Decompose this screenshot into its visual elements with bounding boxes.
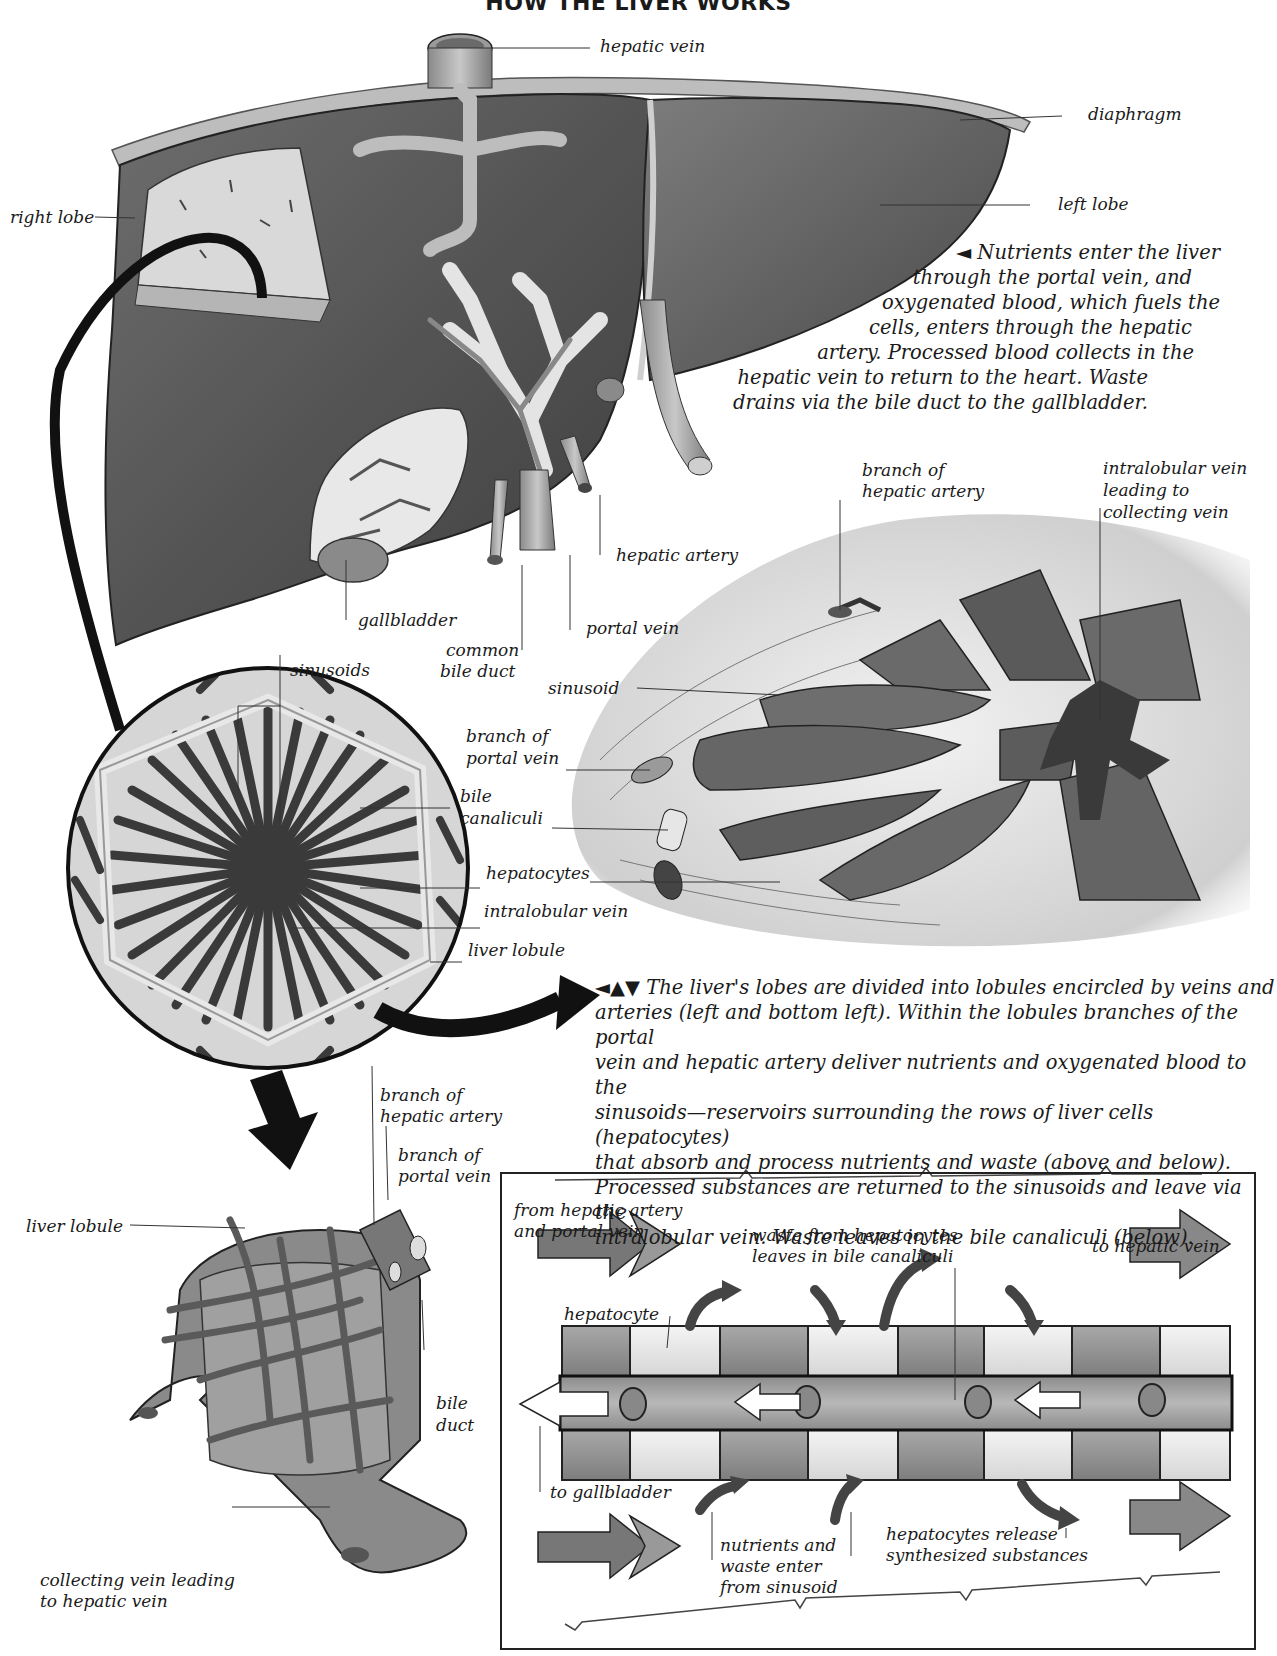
sinusoid-section-art — [552, 500, 1250, 946]
label-intralobular-vein-1: intralobular vein — [1103, 458, 1247, 479]
label-intralobular-vein-2: leading to — [1103, 480, 1189, 501]
label-hepatic-artery: hepatic artery — [616, 545, 738, 566]
label-3d-branch-hepatic-artery-2: hepatic artery — [380, 1106, 502, 1127]
label-hepatic-vein: hepatic vein — [600, 36, 705, 57]
label-3d-bile-duct-2: duct — [436, 1415, 474, 1436]
label-3d-branch-hepatic-artery-1: branch of — [380, 1085, 463, 1106]
label-sinusoid: sinusoid — [548, 678, 619, 699]
label-sinusoids: sinusoids — [290, 660, 370, 681]
label-intralobular-vein: intralobular vein — [484, 901, 628, 922]
label-flow-nutrients-2: waste enter — [720, 1556, 822, 1577]
label-flow-nutrients-3: from sinusoid — [720, 1577, 838, 1598]
label-3d-collecting-vein-2: to hepatic vein — [40, 1591, 168, 1612]
label-right-lobe: right lobe — [10, 207, 94, 228]
label-3d-branch-portal-vein-1: branch of — [398, 1145, 481, 1166]
label-common-bile-duct-2: bile duct — [440, 661, 515, 682]
label-flow-release-2: synthesized substances — [886, 1545, 1088, 1566]
label-bile-canaliculi-1: bile — [460, 786, 492, 807]
label-common-bile-duct-1: common — [446, 640, 519, 661]
label-portal-vein: portal vein — [586, 618, 679, 639]
label-flow-from-2: and portal vein — [514, 1221, 644, 1242]
label-branch-hepatic-artery-2: hepatic artery — [862, 481, 984, 502]
label-gallbladder: gallbladder — [358, 610, 456, 631]
label-bile-canaliculi-2: canaliculi — [460, 808, 543, 829]
label-3d-liver-lobule: liver lobule — [26, 1216, 123, 1237]
label-flow-release-1: hepatocytes release — [886, 1524, 1058, 1545]
label-flow-to-hepatic-vein: to hepatic vein — [1092, 1236, 1220, 1257]
label-branch-hepatic-artery-1: branch of — [862, 460, 945, 481]
label-flow-waste-1: waste from hepatocytes — [752, 1225, 958, 1246]
caption-middle-arrows-icon: ◄▲▼ — [595, 976, 640, 999]
label-3d-collecting-vein-1: collecting vein leading — [40, 1570, 235, 1591]
label-branch-portal-vein-1: branch of — [466, 726, 549, 747]
label-liver-lobule: liver lobule — [468, 940, 565, 961]
label-hepatocytes: hepatocytes — [486, 863, 590, 884]
label-diaphragm: diaphragm — [1088, 104, 1182, 125]
label-flow-nutrients-1: nutrients and — [720, 1535, 836, 1556]
label-3d-branch-portal-vein-2: portal vein — [398, 1166, 491, 1187]
label-left-lobe: left lobe — [1058, 194, 1129, 215]
label-intralobular-vein-3: collecting vein — [1103, 502, 1229, 523]
label-3d-bile-duct-1: bile — [436, 1393, 468, 1414]
label-branch-portal-vein-2: portal vein — [466, 748, 559, 769]
label-flow-to-gallbladder: to gallbladder — [550, 1482, 671, 1503]
label-flow-from-1: from hepatic artery — [514, 1200, 682, 1221]
label-flow-hepatocyte: hepatocyte — [564, 1304, 659, 1325]
label-flow-waste-2: leaves in bile canaliculi — [752, 1246, 953, 1267]
caption-top: ◄ Nutrients enter the liver through the … — [720, 240, 1220, 415]
caption-top-arrow-icon: ◄ — [956, 241, 971, 264]
